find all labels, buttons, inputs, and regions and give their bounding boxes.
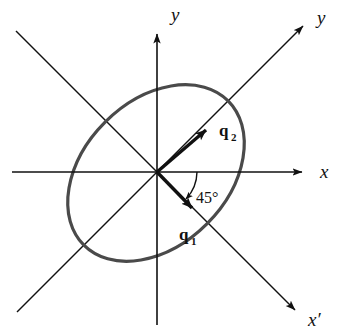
q2-label-subscript: 2 — [231, 131, 237, 143]
rotated-axes-ellipse-figure: y x y x′ q 2 q 1 45° — [0, 0, 339, 336]
q1-label-subscript: 1 — [191, 235, 197, 247]
q2-vector-arrow — [157, 130, 206, 172]
angle-label: 45° — [196, 189, 218, 206]
diagram-canvas: y x y x′ q 2 q 1 45° — [0, 0, 339, 336]
x-prime-axis-shaft — [16, 31, 295, 310]
q1-vector-arrow — [157, 172, 192, 208]
y-prime-axis-label: y — [315, 7, 326, 28]
y-axis-label: y — [169, 4, 180, 25]
q1-label: q — [179, 225, 189, 244]
x-axis-label: x — [319, 161, 329, 182]
q2-label: q — [219, 121, 229, 140]
x-prime-axis-label: x′ — [307, 309, 321, 330]
